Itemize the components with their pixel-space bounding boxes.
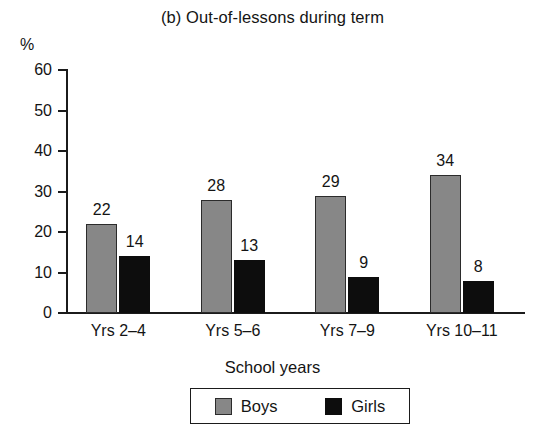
bar-value-label: 9 [359,254,368,272]
bar-girls-1 [234,260,265,313]
x-axis-title: School years [0,358,545,377]
x-axis-category-label: Yrs 5–6 [205,322,260,340]
bar-boys-0 [86,224,117,313]
chart-title: (b) Out-of-lessons during term [0,8,545,27]
bar-boys-3 [430,175,461,313]
bar-boys-2 [315,196,346,313]
x-axis-category-label: Yrs 10–11 [426,322,498,340]
y-axis-tick [58,110,67,112]
legend-label-girls: Girls [351,397,385,416]
y-axis-tick [58,69,67,71]
black-square-swatch-icon [325,398,342,415]
y-axis-tick-label: 60 [0,61,52,79]
x-axis-category-label: Yrs 7–9 [320,322,375,340]
legend-item-girls: Girls [325,397,385,416]
bar-value-label: 22 [93,201,111,219]
y-axis-tick [58,312,67,314]
chart-legend: Boys Girls [190,388,410,424]
gray-square-swatch-icon [215,398,232,415]
bar-value-label: 14 [126,233,144,251]
legend-item-boys: Boys [215,397,278,416]
bar-value-label: 29 [322,173,340,191]
bar-value-label: 13 [240,237,258,255]
y-axis-tick-label: 20 [0,223,52,241]
y-axis-tick [58,231,67,233]
bar-girls-3 [463,281,494,313]
legend-label-boys: Boys [241,397,278,416]
bar-girls-2 [348,277,379,313]
bar-value-label: 34 [436,152,454,170]
bar-chart: (b) Out-of-lessons during term % 0102030… [0,0,545,438]
bar-girls-0 [119,256,150,313]
bar-value-label: 28 [207,177,225,195]
y-axis-tick-label: 50 [0,102,52,120]
y-axis-tick [58,191,67,193]
y-axis-tick [58,272,67,274]
bar-boys-1 [201,200,232,313]
y-axis-tick [58,150,67,152]
x-axis-category-label: Yrs 2–4 [91,322,146,340]
bar-value-label: 8 [474,258,483,276]
plot-area [67,70,525,313]
y-axis-tick-label: 10 [0,264,52,282]
y-axis-tick-label: 0 [0,304,52,322]
y-axis-tick-label: 30 [0,183,52,201]
y-axis-unit-label: % [20,36,34,54]
y-axis-tick-label: 40 [0,142,52,160]
